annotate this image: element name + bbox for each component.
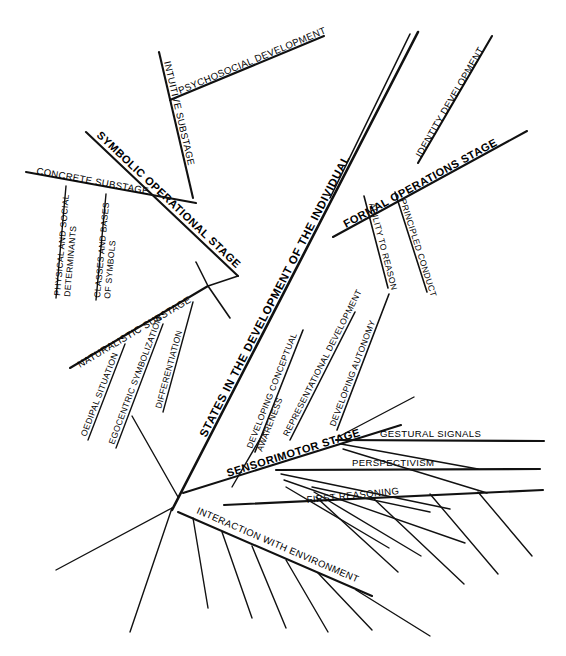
- gestural-signals-label: GESTURAL SIGNALS: [380, 428, 481, 439]
- diagram-canvas: STATES IN THE DEVELOPMENT OF THE INDIVID…: [0, 0, 566, 656]
- development-stages-diagram: STATES IN THE DEVELOPMENT OF THE INDIVID…: [0, 0, 566, 656]
- gestural-signals-line: [336, 440, 544, 441]
